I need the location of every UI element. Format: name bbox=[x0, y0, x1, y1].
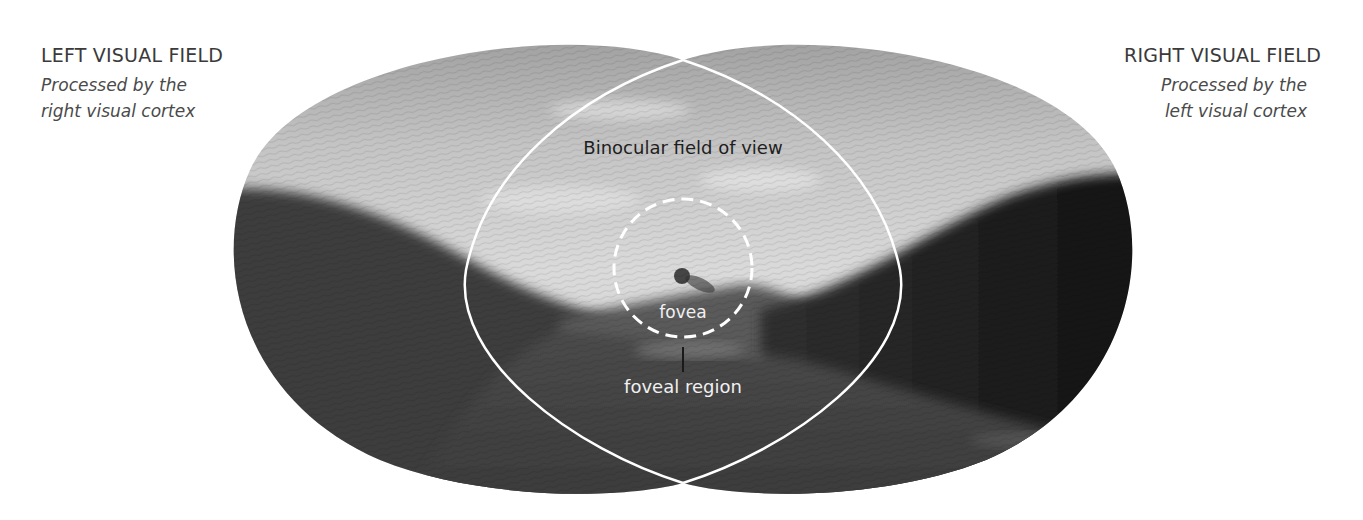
binocular-field-label: Binocular field of view bbox=[583, 137, 782, 158]
landscape-photo bbox=[200, 20, 1170, 520]
fovea-label: fovea bbox=[659, 302, 706, 322]
foveal-region-label: foveal region bbox=[624, 376, 742, 397]
visual-field-diagram: Binocular field of view fovea foveal reg… bbox=[0, 0, 1363, 520]
